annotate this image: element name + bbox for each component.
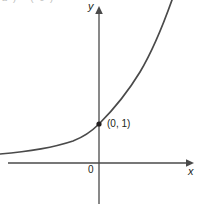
y-axis-arrowhead: [95, 6, 103, 14]
exponential-graph-figure: a) (c) y x 0 (0, 1): [0, 0, 200, 204]
point-marker-0-1: [96, 121, 101, 126]
point-label-0-1: (0, 1): [107, 119, 130, 129]
graph-canvas: [0, 0, 200, 204]
x-axis-label: x: [188, 166, 194, 177]
figure-caption-fragment: a) (c): [2, 0, 59, 3]
y-axis-label: y: [88, 1, 94, 12]
origin-label: 0: [88, 165, 94, 175]
exponential-curve: [0, 0, 172, 154]
